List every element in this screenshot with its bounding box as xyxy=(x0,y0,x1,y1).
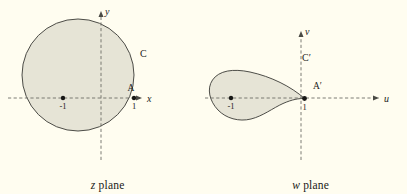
z-point-marker-A xyxy=(132,96,136,100)
w-point-marker-minus-one xyxy=(229,96,233,100)
y-axis-label: y xyxy=(104,6,110,17)
u-axis-arrowhead xyxy=(373,95,379,100)
z-plane-caption: z plane xyxy=(0,167,203,194)
z-tick-label-one: 1 xyxy=(132,101,136,111)
w-point-marker-A-prime xyxy=(302,96,307,101)
w-curve-label-C-prime: C′ xyxy=(302,52,311,63)
w-plane-caption: w plane xyxy=(203,167,406,194)
w-tick-label-one: 1 xyxy=(302,102,306,112)
w-point-label-A-prime: A′ xyxy=(313,81,322,91)
z-curve-label-C: C xyxy=(140,48,147,59)
z-point-label-A: A xyxy=(128,83,135,93)
z-plane-figure: x y -1 1 A C xyxy=(0,0,203,194)
w-plane-caption-text: plane xyxy=(300,179,329,191)
z-plane-caption-text: plane xyxy=(96,179,125,191)
z-point-marker-minus-one xyxy=(61,96,65,100)
x-axis-label: x xyxy=(146,93,152,104)
w-plane-caption-variable: w xyxy=(292,179,300,191)
z-plane-circle-C xyxy=(22,19,134,131)
w-plane-figure: u v -1 1 A′ C′ xyxy=(203,0,407,194)
u-axis-label: u xyxy=(384,93,389,104)
w-tick-label-minus-one: -1 xyxy=(227,101,234,111)
y-axis-arrowhead xyxy=(99,11,104,17)
x-axis-arrowhead xyxy=(136,95,142,100)
w-plane-airfoil-C-prime xyxy=(209,70,304,120)
v-axis-label: v xyxy=(305,26,310,37)
v-axis-arrowhead xyxy=(299,31,304,37)
z-tick-label-minus-one: -1 xyxy=(59,101,66,111)
figure-root: x y -1 1 A C u v -1 1 A′ xyxy=(0,0,407,194)
